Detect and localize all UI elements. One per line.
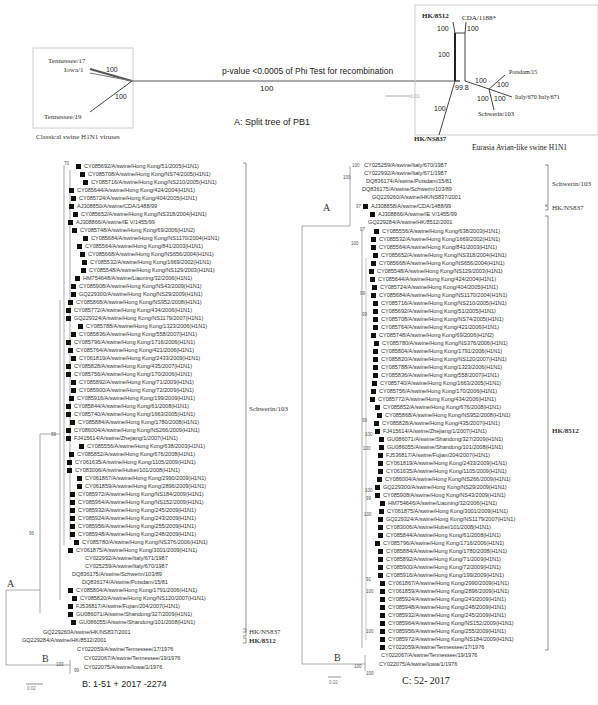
taxon-row: CY085716/A/swine/Hong Kong/NS210/2005(H1… — [373, 300, 507, 306]
taxon-row: CY061819/A/swine/Hong Kong/2433/2009(H1N… — [378, 460, 507, 466]
taxon-row: CY085868/A/swine/Hong Kong/NS952/2008(H1… — [377, 412, 511, 418]
taxon-row: CY085884/A/swine/Hong Kong/1780/2008(H1N… — [378, 548, 507, 554]
support-value: 70 — [64, 161, 69, 166]
hk-isolate-marker-icon — [75, 276, 80, 281]
taxon-row: CY085756/A/swine/Hong Kong/170/2006(H1N1… — [371, 388, 497, 394]
hk-isolate-marker-icon — [373, 309, 378, 314]
hk-isolate-marker-icon — [377, 413, 382, 418]
hk-isolate-marker-icon — [80, 252, 85, 257]
hk-isolate-marker-icon — [66, 340, 71, 345]
panel-b-caption: B: 1-51 + 2017 -2274 — [82, 679, 167, 689]
taxon-row: FJ415614/A/swine/Zhejiang/1/2007(H1N1) — [375, 428, 487, 434]
support-value: 100 — [494, 95, 506, 102]
taxon-row: DQ836174/A/swine/Potsdam/15/81 — [82, 579, 168, 585]
taxon-row: CY085932/A/swine/Hong Kong/245/2009(H1N1… — [380, 612, 506, 618]
hk-isolate-marker-icon — [374, 229, 379, 234]
taxon-row: DQ836174/A/swine/Potsdam/15/81 — [366, 178, 452, 184]
hk-isolate-marker-icon — [380, 581, 385, 586]
hk-isolate-marker-icon — [375, 493, 380, 498]
hk-isolate-marker-icon — [70, 508, 75, 513]
taxon-row: CY022992/A/swine/Italy/671/1987 — [85, 555, 168, 561]
taxon-row: CY061875/A/swine/Hong Kong/3001/2009(H1N… — [379, 508, 508, 514]
taxon-row: GU086055/A/swine/Shandong/101/2008(H1N1) — [379, 444, 503, 450]
hk-isolate-marker-icon — [379, 445, 384, 450]
taxon-row: GQ229324/A/swine/Hong Kong/NS1179/2007(H… — [378, 516, 515, 522]
hk-isolate-marker-icon — [373, 365, 378, 370]
taxon-row: GQ229300/A/swine/Hong Kong/NS29/2009(H1N… — [71, 291, 203, 297]
taxon-row: DQ836175/A/swine/Schwerin/103/89 — [72, 571, 162, 577]
taxon-row: CY085764/A/swine/Hong Kong/421/2006(H1N1… — [373, 324, 499, 330]
hk-isolate-marker-icon — [370, 397, 375, 402]
taxon-row: CY086004/A/swine/Hong Kong/NS266/2009(H1… — [377, 476, 511, 482]
hk-isolate-marker-icon — [380, 589, 385, 594]
support-value: 99 — [366, 496, 371, 501]
hk-isolate-marker-icon — [77, 244, 82, 249]
hk-isolate-marker-icon — [375, 485, 380, 490]
taxon-row: CY085708/A/swine/Hong Kong/NS74/2005(H1N… — [373, 316, 504, 322]
taxon-row: CY085564/A/swine/Hong Kong/841/2003(H1N1… — [77, 243, 203, 249]
hk-isolate-marker-icon — [373, 253, 378, 258]
support-value: 100 — [365, 488, 373, 493]
taxon-row: CY022075/A/swine/Iowa/1/1976 — [84, 664, 162, 670]
hk-isolate-marker-icon — [371, 245, 376, 250]
hk-isolate-marker-icon — [380, 621, 385, 626]
hk-isolate-marker-icon — [375, 541, 380, 546]
hk-isolate-marker-icon — [379, 509, 384, 514]
taxon-row: GU086071/A/swine/Shandong/327/2009(H1N1) — [68, 611, 192, 617]
taxon-row: CY061859/A/swine/Hong Kong/2896/2009(H1N… — [380, 588, 509, 594]
hk-isolate-marker-icon — [68, 612, 73, 617]
node-label-a: A — [323, 202, 330, 213]
taxon-row: CY085900/A/swine/Hong Kong/72/2009(H1N1) — [378, 564, 501, 570]
taxon-row: CY022067/A/swine/Tennessee/19/1976 — [381, 652, 477, 658]
support-value: 100 — [437, 25, 449, 32]
hk-isolate-marker-icon — [380, 637, 385, 642]
hk-isolate-marker-icon — [378, 453, 383, 458]
taxon-row: CY085532/A/swine/Hong Kong/1669/2002(H1N… — [371, 236, 500, 242]
clade-label-hk-ns837: HK/NS837 — [249, 628, 281, 636]
hk-isolate-marker-icon — [374, 341, 379, 346]
taxon-row: CY085724/A/swine/Hong Kong/404/2005(H1N1… — [71, 195, 197, 201]
taxon-row: CY085892/A/swine/Hong Kong/71/2009(H1N1) — [71, 379, 194, 385]
taxon-row: CY085716/A/swine/Hong Kong/NS210/2005(H1… — [83, 179, 217, 185]
support-value: 100 — [343, 175, 351, 180]
hk-isolate-marker-icon — [82, 260, 87, 265]
hk-isolate-marker-icon — [67, 468, 72, 473]
hk-isolate-marker-icon — [373, 317, 378, 322]
taxon-row: CY085828/A/swine/Hong Kong/435/2007(H1N1… — [374, 420, 500, 426]
taxon-row: CY085916/A/swine/Hong Kong/199/2009(H1N1… — [378, 572, 504, 578]
taxon-row: CY085796/A/swine/Hong Kong/1716/2006(H1N… — [66, 339, 195, 345]
hk-isolate-marker-icon — [69, 452, 74, 457]
taxon-row: CY085772/A/swine/Hong Kong/434/2006(H1N1… — [370, 396, 496, 402]
hk-isolate-marker-icon — [70, 420, 75, 425]
panel-c-caption: C: 52- 2017 — [402, 675, 450, 686]
taxon-row: CY085748/A/swine/Hong Kong/69/2006(H1N2) — [72, 227, 195, 233]
support-value: 100 — [438, 51, 450, 58]
support-value: 100 — [475, 77, 487, 84]
taxon-row: CY085692/A/swine/Hong Kong/51/2005(H1N1) — [373, 308, 496, 314]
hk-isolate-marker-icon — [80, 172, 85, 177]
support-value: 100 — [351, 241, 359, 246]
taxon-row: CY086004/A/swine/Hong Kong/NS266/2009(H1… — [66, 427, 200, 433]
hk-isolate-marker-icon — [373, 325, 378, 330]
hk-isolate-marker-icon — [72, 228, 77, 233]
hk-isolate-marker-icon — [372, 381, 377, 386]
support-value: 99 — [360, 291, 365, 296]
taxon-row: CY085764/A/swine/Hong Kong/421/2006(H1N1… — [68, 347, 194, 353]
taxon-row: CY022059/A/swine/Tennessee/17/1976 — [77, 646, 173, 652]
support-value: 97 — [356, 204, 361, 209]
hk-isolate-marker-icon — [380, 605, 385, 610]
taxon-row: CY085956/A/swine/Hong Kong/255/2009(H1N1… — [70, 523, 196, 529]
hk-isolate-marker-icon — [378, 533, 383, 538]
taxon-row: GU086071/A/swine/Shandong/327/2009(H1N1) — [379, 436, 503, 442]
hk-isolate-marker-icon — [70, 500, 75, 505]
hk-isolate-marker-icon — [71, 356, 76, 361]
hk-isolate-marker-icon — [69, 204, 74, 209]
taxon-row: CY085652/A/swine/Hong Kong/NS318/2004(H1… — [73, 211, 207, 217]
taxon-row: FJ536817/A/swine/Fujian/204/2007(H1N1) — [68, 603, 180, 609]
node-label-b: B — [334, 652, 341, 663]
taxon-row: CY085796/A/swine/Hong Kong/1716/2006(H1N… — [375, 540, 504, 546]
support-value: 96 — [29, 531, 34, 536]
hk-isolate-marker-icon — [71, 380, 76, 385]
taxon-row: CY085644/A/swine/Hong Kong/424/2004(H1N1… — [370, 276, 496, 282]
taxon-row: DQ836175/A/swine/Schwerin/103/89 — [362, 186, 452, 192]
